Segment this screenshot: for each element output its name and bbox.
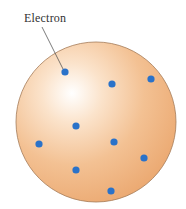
electron-dot [140,154,147,161]
electron-dot [35,140,42,147]
atom-diagram [0,0,186,209]
electron-dot [110,138,117,145]
electron-dot [147,75,154,82]
electron-dot [61,68,68,75]
positive-sphere [16,42,176,202]
electron-label: Electron [24,11,66,26]
electron-dot [107,187,114,194]
electron-dot [72,122,79,129]
electron-dot [72,166,79,173]
electron-dot [108,80,115,87]
